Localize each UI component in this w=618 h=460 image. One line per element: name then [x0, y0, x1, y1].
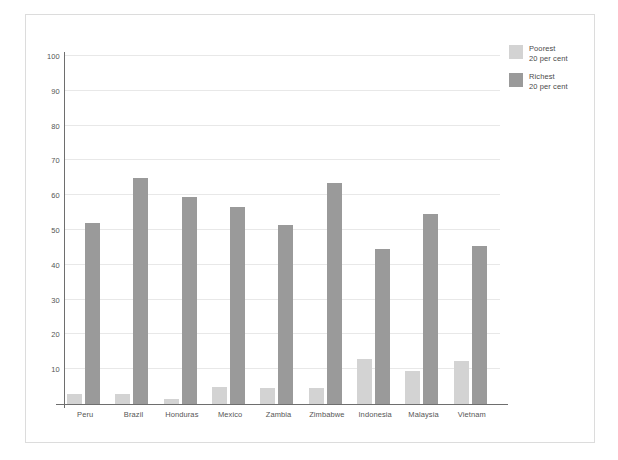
bar-richest-zambia — [278, 225, 293, 404]
bar-poorest-indonesia — [357, 359, 372, 404]
x-tick-label-zimbabwe: Zimbabwe — [309, 410, 344, 419]
bar-poorest-zambia — [260, 388, 275, 404]
x-tick-label-malaysia: Malaysia — [408, 410, 438, 419]
chart-legend: Poorest20 per centRichest20 per cent — [509, 44, 595, 100]
y-tick-label: 10 — [51, 365, 60, 374]
bar-group — [307, 56, 355, 404]
legend-label-poorest: Poorest20 per cent — [529, 44, 568, 63]
bar-poorest-mexico — [212, 387, 227, 404]
bar-poorest-peru — [67, 394, 82, 404]
legend-label-line2: 20 per cent — [529, 54, 568, 64]
bar-poorest-malaysia — [405, 371, 420, 404]
y-tick-label: 90 — [51, 86, 60, 95]
y-tick-label: 20 — [51, 330, 60, 339]
y-tick-label: 60 — [51, 191, 60, 200]
y-axis-tick-labels: 102030405060708090100 — [36, 0, 60, 460]
y-tick-label: 80 — [51, 121, 60, 130]
x-tick-label-vietnam: Vietnam — [458, 410, 486, 419]
bar-richest-mexico — [230, 207, 245, 404]
x-tick-label-honduras: Honduras — [165, 410, 198, 419]
x-tick-label-zambia: Zambia — [266, 410, 292, 419]
bar-poorest-zimbabwe — [309, 388, 324, 404]
y-tick-label: 40 — [51, 260, 60, 269]
bar-group — [65, 56, 113, 404]
bar-group — [355, 56, 403, 404]
bar-group — [162, 56, 210, 404]
bar-poorest-honduras — [164, 399, 179, 404]
bar-group — [258, 56, 306, 404]
bar-group — [113, 56, 161, 404]
bar-chart: 102030405060708090100 PeruBrazilHonduras… — [0, 0, 618, 460]
bar-richest-honduras — [182, 197, 197, 404]
bar-group — [452, 56, 500, 404]
legend-label-line1: Richest — [529, 72, 568, 82]
legend-swatch-poorest — [509, 45, 523, 59]
bar-group — [403, 56, 451, 404]
legend-label-richest: Richest20 per cent — [529, 72, 568, 91]
bar-poorest-brazil — [115, 394, 130, 404]
bars-layer — [65, 56, 500, 404]
x-tick-label-peru: Peru — [77, 410, 93, 419]
y-tick-label: 30 — [51, 295, 60, 304]
bar-richest-indonesia — [375, 249, 390, 404]
legend-label-line2: 20 per cent — [529, 82, 568, 92]
bar-richest-vietnam — [472, 246, 487, 404]
legend-item-richest[interactable]: Richest20 per cent — [509, 72, 595, 91]
bar-poorest-vietnam — [454, 361, 469, 405]
x-axis-category-labels: PeruBrazilHondurasMexicoZambiaZimbabweIn… — [65, 410, 500, 430]
bar-richest-malaysia — [423, 214, 438, 404]
legend-label-line1: Poorest — [529, 44, 568, 54]
x-tick-label-indonesia: Indonesia — [358, 410, 391, 419]
y-tick-label: 70 — [51, 156, 60, 165]
y-tick-label: 50 — [51, 226, 60, 235]
legend-swatch-richest — [509, 73, 523, 87]
bar-richest-brazil — [133, 178, 148, 404]
bar-richest-peru — [85, 223, 100, 404]
x-axis-line — [56, 404, 508, 405]
bar-group — [210, 56, 258, 404]
x-tick-label-mexico: Mexico — [218, 410, 242, 419]
legend-item-poorest[interactable]: Poorest20 per cent — [509, 44, 595, 63]
x-tick-label-brazil: Brazil — [124, 410, 143, 419]
y-tick-label: 100 — [47, 52, 60, 61]
bar-richest-zimbabwe — [327, 183, 342, 404]
